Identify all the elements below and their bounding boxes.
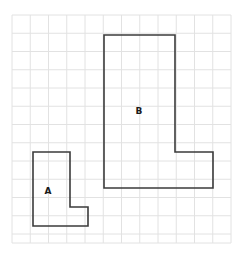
shape-a-outline (33, 152, 88, 226)
shape-b-label: B (136, 106, 143, 116)
grid-layer (12, 15, 231, 243)
labels-layer: AB (45, 106, 143, 196)
grid-figure-svg: AB (0, 0, 242, 257)
figure-canvas: AB (0, 0, 242, 257)
shape-a-label: A (45, 186, 52, 196)
